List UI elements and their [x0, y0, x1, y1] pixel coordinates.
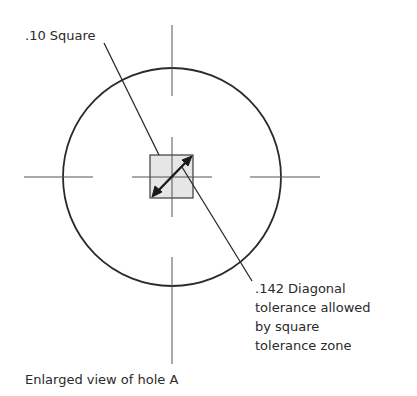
caption: Enlarged view of hole A — [25, 370, 178, 389]
diagonal-label-line-4: tolerance zone — [255, 336, 371, 355]
diagonal-label-line-3: by square — [255, 317, 371, 336]
diagonal-label-line-2: tolerance allowed — [255, 298, 371, 317]
diagonal-leader-line — [182, 167, 252, 281]
diagonal-label-line-1: .142 Diagonal — [255, 279, 371, 298]
diagonal-label: .142 Diagonal tolerance allowed by squar… — [255, 279, 371, 355]
square-leader-line — [104, 43, 159, 155]
square-label: .10 Square — [25, 26, 96, 45]
